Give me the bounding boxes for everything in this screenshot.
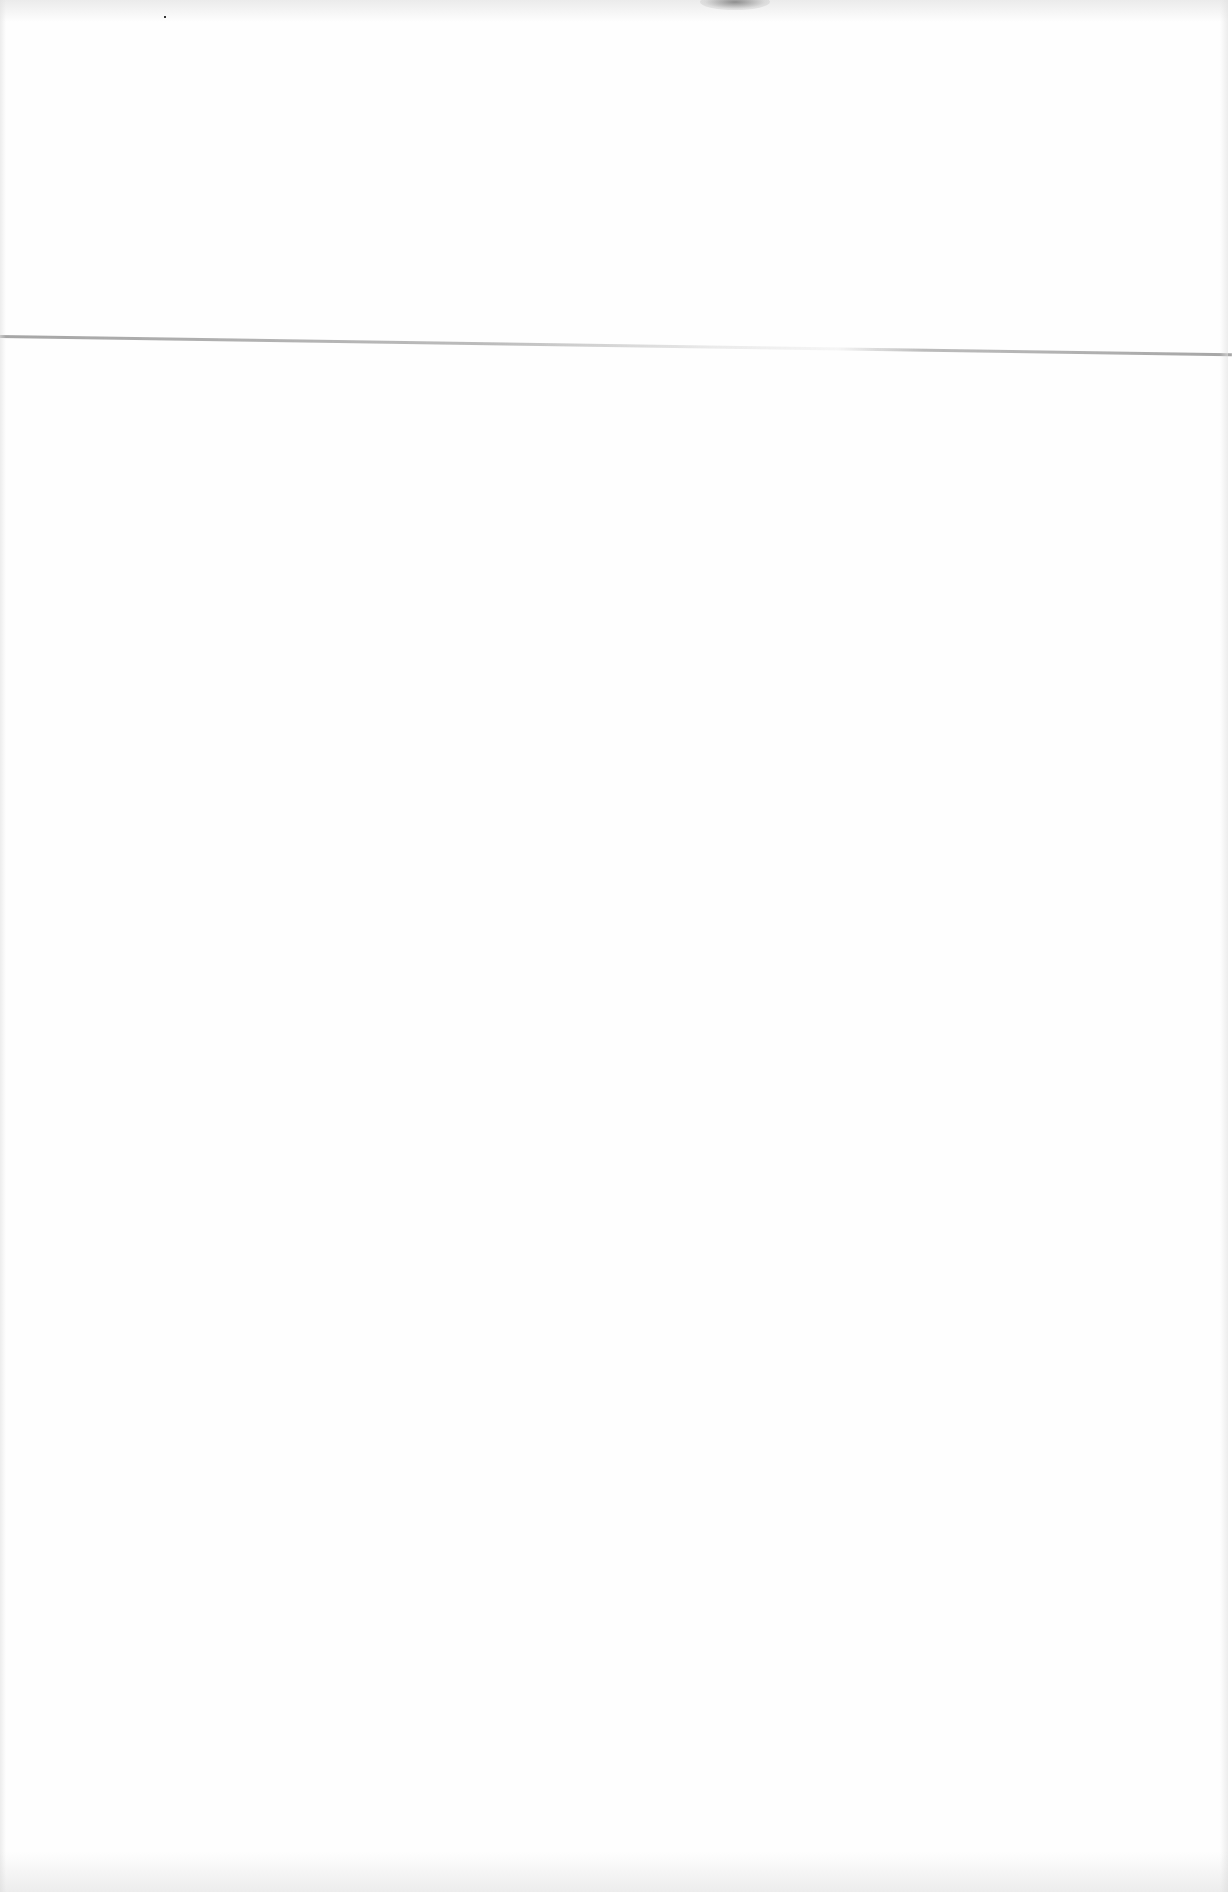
bottom-edge-bleed-through xyxy=(0,1852,1228,1892)
fold-crease-line xyxy=(0,335,1232,356)
scan-edge-left xyxy=(0,0,6,1892)
dust-speck xyxy=(164,16,166,18)
top-edge-bleed-through xyxy=(0,0,1228,22)
scan-edge-right xyxy=(1220,0,1228,1892)
